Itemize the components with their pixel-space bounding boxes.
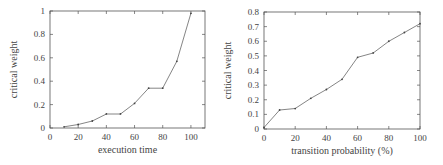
data-point [263, 127, 265, 129]
x-tick-label: 100 [184, 132, 198, 142]
y-tick-label: 0 [41, 123, 46, 133]
y-tick-label: 0.6 [248, 36, 260, 46]
x-tick-label: 40 [322, 133, 332, 143]
data-point [357, 56, 359, 58]
chart-transition-probability: 02040608010000.10.20.30.40.50.60.70.8tra… [222, 7, 427, 157]
data-point [310, 97, 312, 99]
plot-frame [50, 11, 205, 128]
x-tick-label: 80 [384, 133, 394, 143]
x-axis-label: execution time [98, 144, 158, 155]
y-tick-label: 0 [255, 124, 260, 134]
y-tick-label: 0.2 [34, 100, 45, 110]
x-tick-label: 20 [74, 132, 84, 142]
data-point [77, 124, 79, 126]
y-tick-label: 0.1 [248, 109, 259, 119]
y-tick-label: 0.5 [248, 51, 260, 61]
data-point [404, 32, 406, 34]
chart-execution-time: 02040608010000.20.40.60.81execution time… [8, 6, 205, 155]
y-tick-label: 0.2 [248, 95, 259, 105]
x-tick-label: 60 [130, 132, 140, 142]
data-point [176, 60, 178, 62]
y-tick-label: 0.7 [248, 22, 260, 32]
y-axis-label: critical weight [222, 42, 233, 100]
data-point [326, 89, 328, 91]
data-point [148, 87, 150, 89]
data-point [190, 12, 192, 14]
x-tick-label: 0 [48, 132, 53, 142]
data-point [162, 87, 164, 89]
y-tick-label: 0.3 [248, 80, 260, 90]
data-line [264, 24, 420, 128]
y-tick-label: 0.4 [248, 66, 260, 76]
y-tick-label: 1 [41, 6, 46, 16]
plot-frame [264, 12, 420, 129]
x-tick-label: 60 [353, 133, 363, 143]
x-tick-label: 80 [158, 132, 168, 142]
y-tick-label: 0.8 [248, 7, 260, 17]
data-point [341, 78, 343, 80]
data-point [134, 103, 136, 105]
x-tick-label: 100 [413, 133, 427, 143]
data-point [63, 126, 65, 128]
data-point [419, 23, 421, 25]
x-tick-label: 20 [291, 133, 301, 143]
data-point [91, 120, 93, 122]
charts-canvas: 02040608010000.20.40.60.81execution time… [0, 0, 443, 165]
y-tick-label: 0.4 [34, 76, 46, 86]
x-tick-label: 40 [102, 132, 112, 142]
y-tick-label: 0.8 [34, 29, 46, 39]
data-point [279, 109, 281, 111]
data-point [105, 113, 107, 115]
x-tick-label: 0 [262, 133, 267, 143]
data-point [372, 52, 374, 54]
data-line [64, 13, 191, 127]
y-axis-label: critical weight [8, 41, 19, 99]
y-tick-label: 0.6 [34, 53, 46, 63]
data-point [388, 40, 390, 42]
data-point [120, 113, 122, 115]
figure: 02040608010000.20.40.60.81execution time… [0, 0, 443, 165]
data-point [294, 108, 296, 110]
x-axis-label: transition probability (%) [291, 145, 393, 157]
